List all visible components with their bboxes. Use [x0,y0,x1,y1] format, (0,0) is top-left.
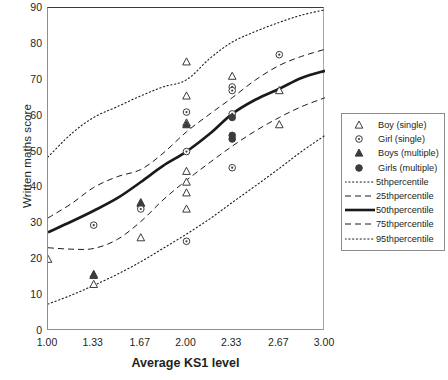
dashed-line-icon [344,190,375,202]
data-point [90,222,97,229]
solid-line-icon [344,204,375,216]
legend-item[interactable]: Boy (single) [344,118,442,132]
data-point [183,109,190,116]
legend-item-label: 95thpercentile [375,234,434,244]
legend-item[interactable]: 25thpercentile [344,189,442,203]
plot-canvas [48,8,325,331]
data-point [183,205,191,212]
data-point [137,199,145,206]
legend-item[interactable]: Boys (multiple) [344,146,442,160]
data-point [90,280,98,287]
legend-item-label: 75thpercentile [375,219,434,229]
y-tick-label: 80 [6,38,42,49]
legend-item-label: Girl (single) [374,134,425,144]
y-tick-label: 70 [6,74,42,85]
data-series [229,114,236,142]
filled-triangle-icon [344,147,374,159]
x-axis-title: Average KS1 level [47,356,324,370]
dotted-line-icon [344,233,375,245]
legend-item-label: Boys (multiple) [374,148,439,158]
data-point [90,270,98,277]
filled-circle-icon [344,162,374,174]
open-circle-dot-icon [344,133,374,145]
data-point [183,178,191,185]
legend-item-label: 50thpercentile [375,205,434,215]
y-axis-tick-labels: 0102030405060708090 [0,0,42,380]
data-point [275,121,283,128]
legend-item[interactable]: 5thpercentile [344,175,442,189]
data-point [137,206,144,213]
plot-area [47,7,324,330]
legend-item-label: Boy (single) [374,120,427,130]
data-point [229,136,236,143]
data-point [183,167,191,174]
percentile-curve [48,10,325,157]
y-tick-label: 30 [6,217,42,228]
y-tick-label: 90 [6,2,42,13]
legend-item[interactable]: 95thpercentile [344,232,442,246]
legend-item-label: 25thpercentile [375,191,434,201]
y-tick-label: 60 [6,110,42,121]
y-tick-label: 40 [6,181,42,192]
chart-figure: Written maths score 0102030405060708090 … [0,0,448,380]
chart-legend: Boy (single)Girl (single)Boys (multiple)… [341,113,445,251]
data-point [276,51,283,58]
x-tick-label: 1.67 [118,336,162,348]
data-series [90,121,190,278]
data-point [229,114,236,121]
legend-item[interactable]: Girls (multiple) [344,161,442,175]
data-point [228,72,236,79]
dotted-line-icon [344,176,375,188]
data-point [183,92,191,99]
x-tick-label: 2.33 [209,336,253,348]
x-tick-label: 1.00 [25,336,69,348]
y-tick-label: 0 [6,325,42,336]
data-point [183,58,191,65]
x-tick-label: 2.67 [256,336,300,348]
x-tick-label: 1.33 [71,336,115,348]
x-tick-label: 2.00 [164,336,208,348]
data-point [183,189,191,196]
y-tick-label: 50 [6,146,42,157]
legend-item-label: 5thpercentile [375,177,429,187]
legend-item[interactable]: 75thpercentile [344,217,442,231]
data-point [229,164,236,171]
x-tick-label: 3.00 [302,336,346,348]
legend-item[interactable]: Girl (single) [344,132,442,146]
data-point [137,234,145,241]
data-series [48,58,283,288]
y-tick-label: 20 [6,253,42,264]
data-point [183,148,190,155]
data-point [229,87,236,94]
open-triangle-icon [344,119,374,131]
y-tick-label: 10 [6,289,42,300]
legend-item[interactable]: 50thpercentile [344,203,442,217]
data-point [48,255,52,262]
legend-item-label: Girls (multiple) [374,163,437,173]
data-point [183,238,190,245]
dashed-line-icon [344,218,375,230]
